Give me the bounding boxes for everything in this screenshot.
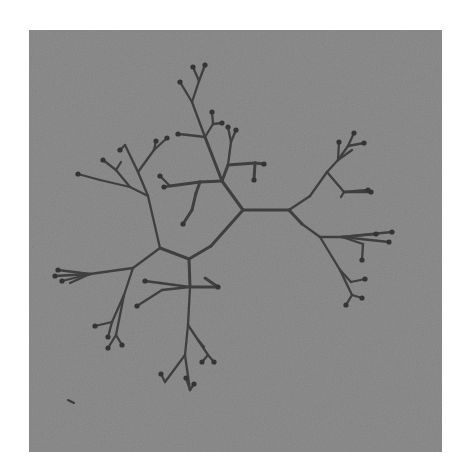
branch-tip-node [373,231,378,236]
branch-tip-node [261,161,266,166]
branch-tip-node [55,267,60,272]
branch-tip-node [52,273,57,278]
branch-tip-node [361,140,366,145]
branch-tip-node [343,302,348,307]
branch-tip-node [351,130,356,135]
branch-tip-node [209,109,214,114]
branch-tip-node [59,278,64,283]
branch-tip-node [158,371,163,376]
branch-tip-node [134,303,139,308]
branch-tip-node [211,359,216,364]
branch-tip-node [100,157,105,162]
branch-tip-node [177,79,182,84]
branch-tip-node [157,173,162,178]
branch-tip-node [161,184,166,189]
branch-tip-node [183,375,188,380]
branch-tip-node [365,187,370,192]
branch-tip-node [359,257,364,262]
branch-tip-node [175,131,180,136]
branch-tip-node [251,177,256,182]
branch-tip-node [191,381,196,386]
branch-tip-node [336,139,341,144]
dendrite-figure [29,30,442,452]
branch-tip-node [119,342,124,347]
branch-tip-node [202,62,207,67]
branch-tip-node [225,124,230,129]
branch-tip-node [362,276,367,281]
branch-tip-node [389,229,394,234]
branch-tip-node [386,239,391,244]
branch-tip-node [359,295,364,300]
branch-tip-node [142,278,147,283]
branch-tip-node [199,359,204,364]
branch-tip-node [105,334,110,339]
branch-tip-node [153,138,158,143]
branch-tip-node [92,323,97,328]
branch-tip-node [190,64,195,69]
branch-tip-node [75,171,80,176]
branch-segment [200,181,222,182]
branch-tip-node [105,345,110,350]
branch-segment [189,259,190,287]
dendritic-tree-illustration [29,30,442,452]
branch-tip-node [233,127,238,132]
branch-segment [228,163,255,165]
branch-tip-node [164,135,169,140]
branch-tip-node [215,284,220,289]
branch-tip-node [219,120,224,125]
branch-tip-node [180,221,185,226]
branch-tip-node [117,147,122,152]
